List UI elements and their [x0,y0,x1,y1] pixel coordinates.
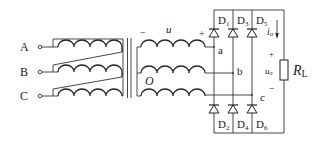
label-c-terminal: C [20,89,28,103]
terminal-a [38,45,42,49]
secondary-voltage-label: u [166,23,172,35]
secondary-plus: + [199,28,205,39]
node-b-label: b [237,65,243,77]
diode-d6 [247,105,257,113]
d6-label: D6 [256,118,268,132]
neutral-label: O [145,74,154,88]
load-resistor [280,60,288,80]
resistor-label: RL [292,63,308,79]
terminal-c [38,94,42,98]
d2-label: D2 [218,118,230,132]
d4-label: D4 [237,118,249,132]
label-b-terminal: B [20,65,28,79]
output-voltage-label: uo [265,66,273,76]
terminal-b [38,70,42,74]
diode-d2 [209,105,219,113]
node-a-label: a [218,44,223,56]
secondary-winding [137,40,253,96]
primary-winding [38,39,123,98]
bridge-rectifier [209,10,284,133]
output-minus: − [269,83,275,94]
diode-d4 [228,105,238,113]
current-label: io [267,26,274,38]
label-a-terminal: A [20,40,29,54]
current-arrow-icon [275,20,278,39]
diode-d3 [228,29,238,37]
circuit-diagram: A B C − u + O a b c D1 D3 D5 D2 D4 D6 io… [0,0,323,144]
secondary-minus: − [140,27,146,38]
output-plus: + [269,49,274,59]
d1-label: D1 [218,14,230,28]
diode-d1 [209,29,219,37]
node-c-label: c [260,91,265,103]
d3-label: D3 [237,14,249,28]
transformer-core [128,38,132,98]
diode-d5 [247,29,257,37]
